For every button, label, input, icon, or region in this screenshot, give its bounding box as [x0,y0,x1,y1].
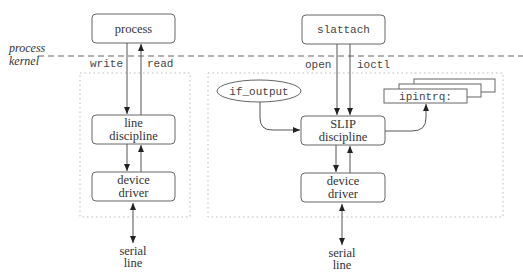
line-discipline-label-2: discipline [109,129,158,143]
ipintrq-label: ipintrq: [399,91,452,103]
kernel-label: kernel [9,54,40,68]
slip-to-ipintrq-arrow [385,104,426,131]
if-output-label: if_output [229,86,288,98]
left-device-driver-label-2: driver [119,186,150,200]
open-label: open [305,59,331,71]
process-box-label: process [115,22,153,36]
if-output-arrow [260,102,300,130]
right-device-driver-label-2: driver [328,187,359,201]
slip-diagram: process kernel process write read line d… [0,0,523,276]
right-serial-label-2: line [333,258,352,272]
left-device-driver-label-1: device [117,173,150,187]
right-stack: slattach open ioctl if_output ipintrq: S… [217,15,495,272]
left-serial-label-2: line [124,256,143,270]
slip-discipline-label-1: SLIP [330,117,356,131]
read-label: read [147,58,173,70]
slattach-label: slattach [317,24,370,36]
slip-discipline-label-2: discipline [319,130,368,144]
right-device-driver-label-1: device [327,174,360,188]
line-discipline-label-1: line [124,116,143,130]
write-label: write [90,58,123,70]
process-label: process [8,41,46,55]
left-stack: process write read line discipline devic… [90,14,175,270]
ioctl-label: ioctl [357,59,390,71]
